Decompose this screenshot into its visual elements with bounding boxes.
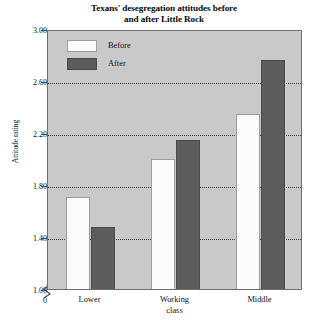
x-tick-label-line: class	[135, 305, 215, 316]
legend-label-before: Before	[108, 41, 131, 50]
chart-figure: Texans' desegregation attitudes before a…	[0, 0, 317, 334]
bar-before-working-class	[151, 159, 175, 289]
legend-item-before: Before	[67, 39, 197, 52]
bar-after-working-class	[176, 140, 200, 290]
chart-title-line-1: Texans' desegregation attitudes before	[28, 3, 300, 14]
legend-item-after: After	[67, 57, 197, 70]
legend-swatch-before	[67, 40, 97, 52]
x-tick-label: Lower	[50, 294, 130, 305]
x-axis-labels: LowerWorkingclassMiddle	[47, 294, 302, 332]
x-tick-label-line: Middle	[220, 294, 300, 305]
bar-after-middle	[261, 60, 285, 289]
chart-title: Texans' desegregation attitudes before a…	[28, 3, 300, 24]
y-origin-label: 0	[9, 296, 47, 305]
legend-swatch-after	[67, 58, 97, 70]
x-tick-label-line: Working	[135, 294, 215, 305]
y-axis-ticks: 1.001.401.802.202.603.000	[0, 0, 47, 334]
x-tick-label-line: Lower	[50, 294, 130, 305]
bar-before-middle	[236, 114, 260, 290]
legend-label-after: After	[108, 59, 126, 68]
x-tick-label: Workingclass	[135, 294, 215, 316]
bar-before-lower	[66, 197, 90, 289]
chart-title-line-2: and after Little Rock	[28, 14, 300, 25]
chart-legend: Before After	[67, 39, 197, 75]
x-tick-label: Middle	[220, 294, 300, 305]
bar-after-lower	[91, 227, 115, 289]
plot-area: Before After	[47, 30, 302, 290]
